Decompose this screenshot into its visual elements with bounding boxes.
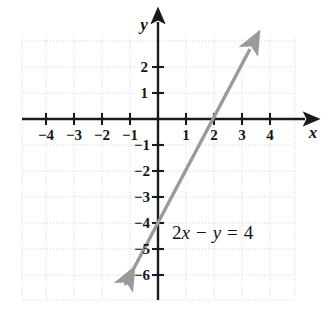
y-tick-label: −5 bbox=[134, 241, 150, 257]
y-tick-label: −1 bbox=[134, 137, 150, 153]
y-tick-label: −2 bbox=[134, 163, 150, 179]
graph-canvas: −4 −3 −2 −1 1 2 3 4 2 1 −1 −2 −3 −4 −5 −… bbox=[0, 0, 334, 313]
axes bbox=[22, 22, 305, 300]
x-tick-label: 2 bbox=[210, 127, 218, 143]
x-tick-label: −3 bbox=[66, 127, 82, 143]
x-tick-label: −2 bbox=[94, 127, 110, 143]
y-tick-label: 1 bbox=[141, 85, 149, 101]
equation-constant: 4 bbox=[244, 222, 254, 243]
x-tick-label: 3 bbox=[238, 127, 246, 143]
equation-minus-sign: − bbox=[196, 222, 207, 243]
y-tick-label: −4 bbox=[134, 215, 151, 231]
equation-variable-x: x bbox=[181, 222, 191, 243]
x-tick-label: 1 bbox=[182, 127, 190, 143]
x-axis-label: x bbox=[308, 123, 318, 142]
x-tick-label: 4 bbox=[266, 127, 274, 143]
y-tick-label: 2 bbox=[141, 59, 149, 75]
equation-equals-sign: = bbox=[227, 222, 238, 243]
x-tick-label: −4 bbox=[38, 127, 55, 143]
y-axis-label: y bbox=[138, 15, 148, 34]
equation-variable-y: y bbox=[211, 222, 222, 243]
y-tick-label: −3 bbox=[134, 189, 150, 205]
equation-coefficient: 2 bbox=[172, 222, 182, 243]
y-tick-label: −6 bbox=[134, 267, 151, 283]
coordinate-plane-figure: −4 −3 −2 −1 1 2 3 4 2 1 −1 −2 −3 −4 −5 −… bbox=[0, 0, 334, 313]
